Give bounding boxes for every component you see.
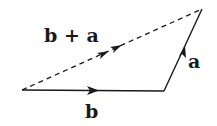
vector-sum-arrowhead-2-icon <box>110 45 122 53</box>
label-a: a <box>188 50 200 72</box>
vector-sum-line <box>22 9 202 90</box>
label-b: b <box>85 100 98 122</box>
vector-addition-diagram: b + a a b <box>0 0 217 126</box>
label-sum: b + a <box>44 24 99 46</box>
